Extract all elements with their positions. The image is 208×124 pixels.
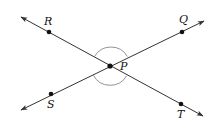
angle-arc-spt <box>93 75 126 85</box>
label-p: P <box>119 60 128 73</box>
angle-arc-rpq <box>94 47 127 57</box>
point-s <box>49 92 54 97</box>
point-r <box>47 30 52 35</box>
label-q: Q <box>179 13 188 26</box>
label-t: T <box>177 108 186 121</box>
label-r: R <box>43 15 52 28</box>
label-s: S <box>47 98 55 111</box>
point-p <box>107 63 112 68</box>
point-t <box>179 102 184 107</box>
point-q <box>180 30 185 35</box>
intersecting-lines-diagram: R Q P S T <box>0 0 208 124</box>
